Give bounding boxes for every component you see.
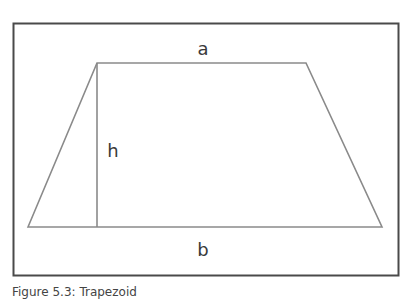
trapezoid-shape <box>28 63 382 227</box>
outer-frame <box>14 24 399 276</box>
figure-caption: Figure 5.3: Trapezoid <box>12 285 137 299</box>
label-h: h <box>107 140 118 161</box>
label-b: b <box>197 239 208 260</box>
label-a: a <box>197 38 208 59</box>
